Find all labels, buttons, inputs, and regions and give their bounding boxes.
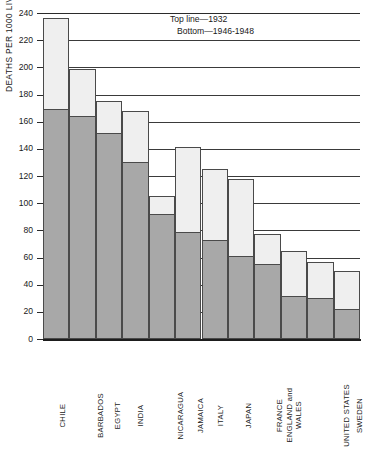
bar-segment-1946-1948 <box>122 162 148 339</box>
bar-segment-1946-1948 <box>334 309 360 339</box>
x-axis-label-text: ENGLAND andWALES <box>285 379 302 451</box>
bar-group <box>43 13 69 339</box>
bar-segment-1946-1948 <box>96 133 122 339</box>
x-axis-label-text: CHILE <box>60 403 69 427</box>
x-axis-label: JAMAICA <box>175 343 201 415</box>
y-tick-label-160: 160 <box>0 117 33 126</box>
bar-segment-1946-1948 <box>228 256 254 339</box>
x-axis-label: JAPAN <box>228 343 254 415</box>
x-axis-label-text: JAPAN <box>245 402 254 427</box>
y-tick-label-40: 40 <box>0 280 33 289</box>
x-axis-label: NICARAGUA <box>149 343 175 415</box>
bar-group <box>307 13 333 339</box>
plot-area <box>43 13 360 339</box>
bar-group <box>122 13 148 339</box>
legend-bottom-line: Bottom—1946-1948 <box>170 26 254 38</box>
bar-group <box>175 13 201 339</box>
y-tick-label-0: 0 <box>0 335 33 344</box>
x-axis-label-text: ITALY <box>217 404 226 425</box>
legend: Top line—1932 Bottom—1946-1948 <box>170 14 254 37</box>
bar-group <box>254 13 280 339</box>
y-tick-label-80: 80 <box>0 226 33 235</box>
x-axis-labels: CHILEBARBADOSEGYPTINDIANICARAGUAJAMAICAI… <box>43 343 361 417</box>
y-tick-label-140: 140 <box>0 144 33 153</box>
bar-segment-1946-1948 <box>254 264 280 339</box>
y-tick-label-60: 60 <box>0 253 33 262</box>
bar-group <box>228 13 254 339</box>
bar-segment-1946-1948 <box>307 298 333 339</box>
y-tick-label-100: 100 <box>0 199 33 208</box>
x-axis-label-text: SWEDEN <box>356 397 365 432</box>
bar-segment-1946-1948 <box>202 240 228 339</box>
y-tick-label-240: 240 <box>0 9 33 18</box>
bar-segment-1946-1948 <box>43 109 69 339</box>
x-axis-label: SWEDEN <box>334 343 360 415</box>
x-axis-line <box>43 339 361 341</box>
bar-group <box>69 13 95 339</box>
y-tick-label-180: 180 <box>0 90 33 99</box>
x-axis-label: EGYPT <box>96 343 122 415</box>
x-axis-label: ENGLAND andWALES <box>281 343 307 415</box>
y-tick-label-120: 120 <box>0 172 33 181</box>
y-tick-label-20: 20 <box>0 307 33 316</box>
bar-group <box>149 13 175 339</box>
bar-group <box>334 13 360 339</box>
bar-group <box>202 13 228 339</box>
x-axis-label: UNITED STATES <box>307 343 333 415</box>
bar-segment-1946-1948 <box>175 232 201 339</box>
bar-segment-1946-1948 <box>69 116 95 339</box>
legend-top-line: Top line—1932 <box>170 14 254 26</box>
bar-segment-1946-1948 <box>149 214 175 339</box>
x-axis-label: FRANCE <box>254 343 280 415</box>
x-axis-label: CHILE <box>43 343 69 415</box>
bar-group <box>281 13 307 339</box>
x-axis-label: BARBADOS <box>69 343 95 415</box>
x-axis-label: INDIA <box>122 343 148 415</box>
bar-segment-1946-1948 <box>281 296 307 339</box>
y-tick-label-200: 200 <box>0 63 33 72</box>
x-axis-label: ITALY <box>202 343 228 415</box>
bar-group <box>96 13 122 339</box>
y-tick-label-220: 220 <box>0 36 33 45</box>
x-axis-label-text: INDIA <box>138 404 147 426</box>
